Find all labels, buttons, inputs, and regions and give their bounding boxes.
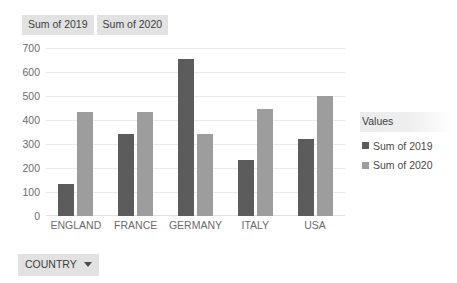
- legend-items: Sum of 2019Sum of 2020: [360, 141, 453, 171]
- bar[interactable]: [317, 96, 333, 216]
- axis-field-button-label: COUNTRY: [25, 259, 77, 270]
- bar[interactable]: [298, 139, 314, 216]
- x-axis-tick-label: USA: [285, 220, 345, 231]
- bar[interactable]: [118, 134, 134, 216]
- y-axis-tick-label: 700: [0, 43, 40, 54]
- legend-swatch-icon: [362, 142, 369, 149]
- bar[interactable]: [178, 59, 194, 216]
- bar[interactable]: [238, 160, 254, 216]
- bar-group: [225, 48, 285, 216]
- bar-group: [46, 48, 106, 216]
- bar-group: [166, 48, 226, 216]
- x-axis: ENGLANDFRANCEGERMANYITALYUSA: [46, 220, 345, 231]
- y-axis-tick-label: 500: [0, 91, 40, 102]
- legend-item[interactable]: Sum of 2019: [360, 141, 453, 152]
- legend-item[interactable]: Sum of 2020: [360, 160, 453, 171]
- field-chip[interactable]: Sum of 2019: [22, 15, 94, 35]
- legend-item-label: Sum of 2020: [373, 160, 433, 171]
- bar[interactable]: [257, 109, 273, 216]
- bar-group: [285, 48, 345, 216]
- legend: Values Sum of 2019Sum of 2020: [360, 112, 453, 171]
- y-axis: 7006005004003002001000: [0, 48, 40, 216]
- bar[interactable]: [58, 184, 74, 216]
- legend-swatch-icon: [362, 162, 369, 169]
- chevron-down-icon[interactable]: [84, 262, 92, 267]
- y-axis-tick-label: 300: [0, 139, 40, 150]
- axis-field-button-country[interactable]: COUNTRY: [18, 254, 99, 276]
- field-chip-bar: Sum of 2019Sum of 2020: [22, 15, 168, 35]
- field-chip[interactable]: Sum of 2020: [97, 15, 169, 35]
- y-axis-tick-label: 0: [0, 211, 40, 222]
- bar-group: [106, 48, 166, 216]
- y-axis-tick-label: 600: [0, 67, 40, 78]
- bar[interactable]: [77, 112, 93, 216]
- x-axis-tick-label: GERMANY: [166, 220, 226, 231]
- bar[interactable]: [137, 112, 153, 216]
- y-axis-tick-label: 400: [0, 115, 40, 126]
- x-axis-tick-label: ENGLAND: [46, 220, 106, 231]
- y-axis-tick-label: 200: [0, 163, 40, 174]
- x-axis-tick-label: ITALY: [225, 220, 285, 231]
- legend-item-label: Sum of 2019: [373, 141, 433, 152]
- bar[interactable]: [197, 134, 213, 216]
- legend-title: Values: [360, 112, 453, 132]
- bar-series-layer: [46, 48, 345, 216]
- x-axis-tick-label: FRANCE: [106, 220, 166, 231]
- y-axis-tick-label: 100: [0, 187, 40, 198]
